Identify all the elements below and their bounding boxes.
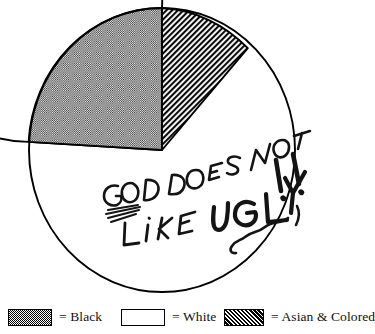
- solid-white-swatch-icon: [121, 309, 165, 326]
- legend-item-white[interactable]: = White: [121, 300, 216, 334]
- chart-legend: = Black = White = Asian & Colored: [0, 300, 344, 334]
- diagonal-hatch-swatch-icon: [224, 309, 264, 326]
- legend-label-black: = Black: [59, 309, 102, 325]
- legend-item-black[interactable]: = Black: [8, 300, 102, 334]
- pie-slice-asian-colored: [162, 8, 248, 150]
- pie-chart-svg: [0, 0, 344, 298]
- legend-item-asian-colored[interactable]: = Asian & Colored: [224, 300, 375, 334]
- legend-label-white: = White: [172, 309, 216, 325]
- pie-chart-figure: [0, 0, 344, 298]
- stipple-gray-swatch-icon: [8, 309, 52, 326]
- legend-label-asian-colored: = Asian & Colored: [271, 309, 375, 325]
